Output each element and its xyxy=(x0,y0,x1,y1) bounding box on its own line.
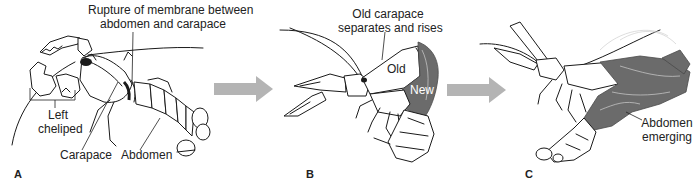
label-new: New xyxy=(410,83,434,97)
label-old-carapace: Old carapace separates and rises xyxy=(338,7,438,35)
panel-letter-a: A xyxy=(14,168,22,180)
panel-letter-c: C xyxy=(525,168,533,180)
label-abdomen: Abdomen xyxy=(121,148,172,162)
label-rupture: Rupture of membrane between abdomen and … xyxy=(88,3,238,31)
label-abdomen-emerging: Abdomen emerging xyxy=(640,116,694,144)
lobster-panel-a xyxy=(12,32,210,156)
label-old: Old xyxy=(387,62,406,76)
arrow-a-to-b xyxy=(214,76,273,102)
molting-diagram: .ln { fill:none; stroke:#1a1a1a; stroke-… xyxy=(0,0,697,190)
label-carapace: Carapace xyxy=(60,148,112,162)
panel-letter-b: B xyxy=(306,168,314,180)
label-left-cheliped: Left cheliped xyxy=(38,108,78,136)
arrow-b-to-c xyxy=(447,77,506,103)
